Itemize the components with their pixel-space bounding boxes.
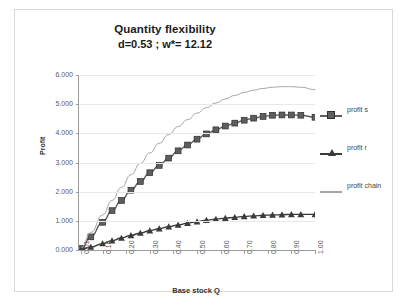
y-axis-tick-label: 2.000 — [33, 188, 73, 195]
x-axis-tick-label: 1.00 — [317, 240, 324, 254]
chart-container: Quantity flexibility d=0.53 ; w*= 12.12 … — [14, 9, 393, 292]
legend-label: profit s — [347, 105, 395, 114]
x-axis-tick-label: 0.80 — [270, 240, 277, 254]
y-axis-tick-label: 3.000 — [33, 159, 73, 166]
legend-item[interactable]: profit r — [320, 144, 394, 182]
y-axis-tick-label: 1.000 — [33, 217, 73, 224]
triangle-marker — [320, 149, 342, 159]
x-axis-tick-label: 0.20 — [128, 240, 135, 254]
square-marker — [320, 111, 342, 121]
y-axis-tick-label: 0.000 — [33, 246, 73, 253]
x-axis-title: Base stock Q — [78, 286, 314, 295]
y-axis-title: Profit — [39, 137, 46, 155]
x-axis-tick-label: 0.10 — [105, 240, 112, 254]
legend-item[interactable]: profit chain — [320, 182, 394, 220]
y-axis-tick-label: 5.000 — [33, 100, 73, 107]
legend-triangle-marker — [328, 149, 336, 156]
legend-line — [320, 191, 342, 193]
y-axis-tick-label: 4.000 — [33, 129, 73, 136]
x-axis-tick-label: 0.50 — [199, 240, 206, 254]
legend-label: profit r — [347, 143, 395, 152]
x-tick-mark — [315, 250, 316, 254]
y-tick-mark — [76, 250, 79, 251]
legend-item[interactable]: profit s — [320, 106, 394, 144]
chart-legend: profit sprofit rprofit chain — [320, 106, 394, 220]
chart-title-block: Quantity flexibility d=0.53 ; w*= 12.12 — [15, 22, 315, 52]
x-axis-tick-labels: 0.010.100.200.300.400.500.600.700.800.90… — [78, 254, 314, 284]
x-axis-tick-label: 0.40 — [175, 240, 182, 254]
legend-label: profit chain — [347, 181, 395, 190]
chart-subtitle: d=0.53 ; w*= 12.12 — [15, 37, 315, 52]
line-marker — [320, 187, 342, 197]
x-axis-tick-label: 0.30 — [152, 240, 159, 254]
legend-square-marker — [327, 111, 335, 119]
x-axis-tick-label: 0.60 — [223, 240, 230, 254]
x-axis-tick-label: 0.90 — [293, 240, 300, 254]
y-axis-tick-labels: 6.0005.0004.0003.0002.0001.0000.000 — [78, 75, 314, 250]
y-axis-tick-label: 6.000 — [33, 71, 73, 78]
chart-title: Quantity flexibility — [15, 22, 315, 36]
x-axis-tick-label: 0.01 — [83, 240, 90, 254]
x-axis-tick-label: 0.70 — [246, 240, 253, 254]
